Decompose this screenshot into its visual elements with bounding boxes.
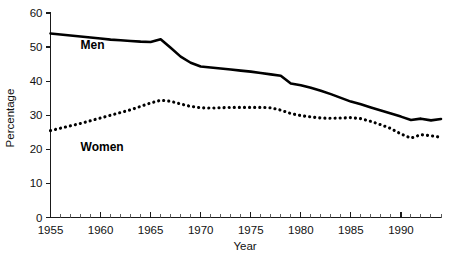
- x-tick-label: 1990: [388, 224, 414, 236]
- x-tick-label: 1985: [338, 224, 364, 236]
- y-axis-tick-labels: 0102030405060: [30, 7, 43, 224]
- series-label-men: Men: [81, 38, 105, 52]
- y-axis-ticks: [46, 13, 51, 218]
- y-tick-label: 50: [30, 41, 43, 53]
- y-tick-label: 10: [30, 177, 43, 189]
- x-axis-title: Year: [233, 240, 256, 252]
- x-axis-ticks: [51, 212, 401, 218]
- y-tick-label: 0: [36, 212, 42, 224]
- x-tick-label: 1955: [38, 224, 64, 236]
- series-label-women: Women: [81, 140, 124, 154]
- x-axis: 19551960196519701975198019851990: [38, 212, 441, 236]
- series-line-women: [51, 100, 442, 138]
- x-tick-label: 1980: [288, 224, 314, 236]
- y-tick-label: 20: [30, 143, 43, 155]
- series-annotations: MenWomen: [81, 38, 124, 154]
- y-axis-title: Percentage: [4, 89, 16, 148]
- x-tick-label: 1970: [188, 224, 214, 236]
- x-tick-label: 1975: [238, 224, 264, 236]
- y-axis: 0102030405060: [30, 7, 51, 224]
- x-tick-label: 1965: [138, 224, 164, 236]
- y-tick-label: 30: [30, 109, 43, 121]
- chart-canvas: 0102030405060 19551960196519701975198019…: [0, 0, 459, 266]
- line-chart: 0102030405060 19551960196519701975198019…: [0, 0, 459, 266]
- y-tick-label: 60: [30, 7, 43, 19]
- x-tick-label: 1960: [88, 224, 114, 236]
- x-axis-tick-labels: 19551960196519701975198019851990: [38, 224, 414, 236]
- y-tick-label: 40: [30, 75, 43, 87]
